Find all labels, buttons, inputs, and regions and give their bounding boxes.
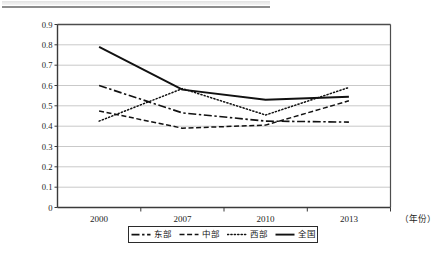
legend-swatch-solid [275, 230, 295, 239]
x-axis-title: （年份） [400, 213, 436, 224]
x-tick-label: 2000 [90, 214, 109, 224]
series-line-东部 [99, 86, 349, 123]
legend-label: 东部 [154, 230, 172, 239]
series-line-全国 [99, 47, 349, 100]
gridlines-group [58, 25, 391, 188]
legend-item-中部: 中部 [179, 230, 220, 239]
y-tick-label: 0.8 [42, 40, 53, 50]
legend-label: 西部 [250, 230, 268, 239]
y-tick-label: 0.5 [42, 101, 53, 111]
legend-item-东部: 东部 [131, 230, 172, 239]
legend-label: 全国 [298, 230, 316, 239]
series-lines-group [99, 47, 349, 128]
legend-item-全国: 全国 [275, 230, 316, 239]
x-tick-labels: 2000200720102013 [90, 214, 358, 224]
x-axis-title-group: （年份） [400, 213, 436, 224]
y-tick-label: 0.2 [42, 162, 53, 172]
legend-label: 中部 [202, 230, 220, 239]
series-line-西部 [99, 88, 349, 122]
y-tick-label: 0.9 [42, 20, 53, 30]
legend-swatch-dashed [179, 230, 199, 239]
y-tick-labels: 00.10.20.30.40.50.60.70.80.9 [42, 20, 58, 213]
y-tick-label: 0.3 [42, 142, 53, 152]
line-chart-svg: 00.10.20.30.40.50.60.70.80.9 20002007201… [0, 0, 439, 260]
x-tick-label: 2010 [257, 214, 276, 224]
chart-legend: 东部中部西部全国 [128, 226, 318, 243]
y-tick-label: 0.1 [42, 182, 53, 192]
legend-item-西部: 西部 [227, 230, 268, 239]
y-tick-label: 0 [48, 203, 52, 213]
series-line-中部 [99, 101, 349, 128]
x-tick-label: 2007 [173, 214, 192, 224]
y-tick-label: 0.6 [42, 81, 53, 91]
y-tick-label: 0.4 [42, 121, 53, 131]
chart-figure: 00.10.20.30.40.50.60.70.80.9 20002007201… [0, 0, 439, 260]
legend-swatch-dash-dot [131, 230, 151, 239]
y-tick-label: 0.7 [42, 60, 53, 70]
plot-area-wrapper: 00.10.20.30.40.50.60.70.80.9 20002007201… [0, 0, 439, 260]
legend-swatch-dotted [227, 230, 247, 239]
x-tick-label: 2013 [340, 214, 359, 224]
